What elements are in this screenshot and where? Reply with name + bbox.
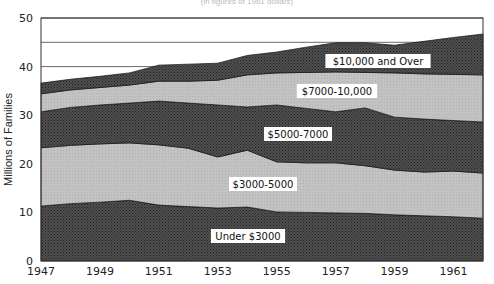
- svg-text:$7000-10,000: $7000-10,000: [302, 86, 372, 97]
- chart-title-fragment: (in figures of 1961 dollars): [201, 0, 294, 6]
- y-axis-title: Millions of Families: [2, 93, 14, 186]
- x-tick-label: 1961: [440, 265, 468, 278]
- x-tick-label: 1953: [204, 265, 232, 278]
- area-bands: [41, 34, 483, 261]
- y-tick-label: 20: [19, 158, 33, 171]
- svg-text:$3000-5000: $3000-5000: [233, 179, 294, 190]
- band-label: $7000-10,000: [297, 84, 377, 98]
- x-tick-label: 1949: [86, 265, 114, 278]
- x-axis: 19471949195119531955195719591961: [27, 265, 468, 278]
- svg-text:Under $3000: Under $3000: [215, 231, 280, 242]
- x-tick-label: 1957: [322, 265, 350, 278]
- y-tick-label: 50: [19, 12, 33, 25]
- y-tick-label: 10: [19, 206, 33, 219]
- band-label: $3000-5000: [229, 177, 297, 191]
- x-tick-label: 1955: [263, 265, 291, 278]
- y-tick-label: 40: [19, 61, 33, 74]
- svg-text:$10,000 and Over: $10,000 and Over: [333, 56, 424, 67]
- band-label: Under $3000: [211, 229, 285, 243]
- svg-text:$5000-7000: $5000-7000: [268, 129, 329, 140]
- y-tick-label: 30: [19, 109, 33, 122]
- band-label: $5000-7000: [264, 127, 332, 141]
- x-tick-label: 1959: [381, 265, 409, 278]
- x-tick-label: 1951: [145, 265, 173, 278]
- x-tick-label: 1947: [27, 265, 55, 278]
- y-axis: 01020304050: [19, 12, 33, 268]
- stacked-area-chart: (in figures of 1961 dollars) 01020304050…: [0, 0, 494, 284]
- band-label: $10,000 and Over: [325, 54, 430, 68]
